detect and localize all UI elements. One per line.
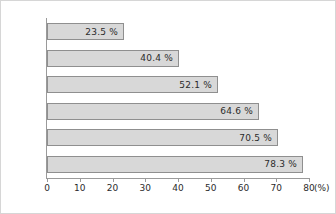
x-axis-tick-label: 10 (74, 183, 85, 193)
bar-value-label: 64.6 % (220, 106, 258, 116)
x-axis-tick-label: 60 (238, 183, 249, 193)
bar-value-label: 70.5 % (239, 133, 277, 143)
bar: 70.5 % (47, 129, 278, 146)
x-axis-tick (113, 178, 114, 182)
x-axis-tick (309, 178, 310, 182)
category-label: 3학년 (0, 76, 13, 93)
x-axis-unit-label: (%) (314, 183, 330, 193)
x-axis-tick (145, 178, 146, 182)
bar: 78.3 % (47, 156, 303, 173)
plot-area: 1학년23.5 %2학년40.4 %3학년52.1 %4학년64.6 %5학년7… (47, 18, 309, 177)
x-axis-tick (178, 178, 179, 182)
bar-row: 3학년52.1 % (47, 76, 309, 93)
bar: 64.6 % (47, 103, 259, 120)
x-axis-tick (211, 178, 212, 182)
x-axis-tick (80, 178, 81, 182)
x-axis-tick (244, 178, 245, 182)
bar-value-label: 78.3 % (264, 159, 302, 169)
x-axis-tick-label: 80 (303, 183, 314, 193)
bar-value-label: 52.1 % (179, 80, 217, 90)
bar-value-label: 40.4 % (140, 53, 178, 63)
x-axis-tick-label: 0 (44, 183, 50, 193)
bar-row: 4학년64.6 % (47, 103, 309, 120)
bar-row: 6학년78.3 % (47, 156, 309, 173)
category-label: 1학년 (0, 23, 13, 40)
x-axis-tick-label: 20 (107, 183, 118, 193)
category-label: 6학년 (0, 156, 13, 173)
x-axis-tick-label: 40 (172, 183, 183, 193)
x-axis-tick-label: 50 (205, 183, 216, 193)
bar: 40.4 % (47, 50, 179, 67)
x-axis-tick-label: 30 (140, 183, 151, 193)
bar-row: 1학년23.5 % (47, 23, 309, 40)
bar-row: 2학년40.4 % (47, 50, 309, 67)
x-axis-tick-label: 70 (271, 183, 282, 193)
bar-row: 5학년70.5 % (47, 129, 309, 146)
x-axis-tick (47, 178, 48, 182)
category-label: 5학년 (0, 129, 13, 146)
x-axis-tick (276, 178, 277, 182)
category-label: 4학년 (0, 103, 13, 120)
bar-value-label: 23.5 % (85, 27, 123, 37)
bar-chart-figure: 1학년23.5 %2학년40.4 %3학년52.1 %4학년64.6 %5학년7… (0, 0, 336, 214)
category-label: 2학년 (0, 50, 13, 67)
bar: 52.1 % (47, 76, 218, 93)
bar: 23.5 % (47, 23, 124, 40)
